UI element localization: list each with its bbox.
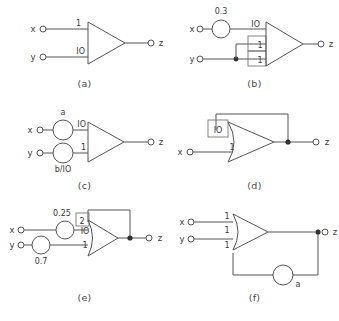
- panel-e: x y 0.25 0.7 2 IO 1 z (: [0, 200, 169, 321]
- input-label-x: x: [9, 225, 14, 235]
- circle-label-0p25: 0.25: [53, 209, 71, 218]
- panel-f: x y a 1 1 1 z (f): [170, 200, 339, 321]
- circle-label-b: b/IO: [55, 165, 71, 174]
- circle-label-a: a: [61, 108, 66, 117]
- circle-0p7[interactable]: [32, 236, 50, 254]
- terminal-x[interactable]: [197, 26, 203, 32]
- terminal-z[interactable]: [318, 41, 324, 47]
- input-label-x: x: [179, 217, 184, 227]
- caption-a: (a): [0, 78, 169, 89]
- terminal-x[interactable]: [187, 149, 193, 155]
- output-label-z: z: [329, 39, 334, 49]
- input-label-x: x: [27, 125, 32, 135]
- terminal-z[interactable]: [322, 229, 328, 235]
- wire-feedback-left: [233, 253, 273, 275]
- gate-triangle: [88, 22, 125, 64]
- terminal-y[interactable]: [18, 242, 24, 248]
- gate-triangle: [233, 214, 268, 250]
- terminal-x[interactable]: [18, 227, 24, 233]
- junction-dot-z: [127, 235, 132, 240]
- weight-x: IO: [81, 227, 90, 236]
- input-label-y: y: [27, 148, 32, 158]
- weight-x: 1: [224, 212, 229, 221]
- terminal-x[interactable]: [188, 219, 194, 225]
- junction-dot-z: [285, 139, 290, 144]
- gate-triangle: [88, 220, 118, 256]
- input-label-y: y: [179, 234, 184, 244]
- weight-mid: 1: [257, 41, 262, 50]
- input-label-x: x: [189, 24, 194, 34]
- weight-y: 1: [224, 226, 229, 235]
- caption-b: (b): [170, 78, 339, 89]
- output-label-z: z: [158, 233, 163, 243]
- caption-f: (f): [170, 292, 339, 303]
- weight-x: 1: [76, 19, 81, 28]
- gate-triangle: [228, 122, 274, 162]
- input-label-y: y: [30, 52, 35, 62]
- weight-x: IO: [77, 120, 86, 129]
- circle-a[interactable]: [53, 120, 73, 140]
- junction-dot-z: [315, 229, 320, 234]
- weight-y: 1: [81, 143, 86, 152]
- caption-e: (e): [0, 292, 169, 303]
- circle-0p3[interactable]: [212, 20, 230, 38]
- output-label-z: z: [159, 137, 164, 147]
- wire-feedback: [216, 114, 288, 142]
- terminal-y[interactable]: [37, 150, 43, 156]
- circle-label-0p3: 0.3: [215, 7, 228, 16]
- caption-c: (c): [0, 180, 169, 191]
- circle-label-a: a: [296, 280, 301, 289]
- weight-feedback: 1: [224, 241, 229, 250]
- input-label-x: x: [177, 147, 182, 157]
- panel-a: x y 1 IO z (a): [0, 0, 169, 100]
- caption-d: (d): [170, 180, 339, 191]
- input-label-x: x: [30, 24, 35, 34]
- circle-label-0p7: 0.7: [35, 257, 48, 266]
- weight-x: IO: [251, 20, 260, 29]
- gate-triangle: [266, 22, 303, 66]
- input-label-y: y: [189, 54, 194, 64]
- terminal-y[interactable]: [197, 56, 203, 62]
- panel-b: x y 0.3 IO 1 1 z (b): [170, 0, 339, 100]
- weight-feedback: 2: [79, 217, 84, 226]
- weight-x: 1: [229, 143, 234, 152]
- panel-c: x y a b/IO IO 1 z (c): [0, 100, 169, 200]
- terminal-x[interactable]: [40, 26, 46, 32]
- circle-0p25[interactable]: [56, 221, 74, 239]
- figure-root: x y 1 IO z (a) x y 0.: [0, 0, 339, 321]
- circle-b[interactable]: [53, 143, 73, 163]
- weight-y: 1: [82, 241, 87, 250]
- terminal-x[interactable]: [37, 127, 43, 133]
- input-label-y: y: [9, 240, 14, 250]
- terminal-y[interactable]: [40, 54, 46, 60]
- terminal-z[interactable]: [148, 40, 154, 46]
- output-label-z: z: [159, 38, 164, 48]
- terminal-y[interactable]: [188, 236, 194, 242]
- output-label-z: z: [333, 227, 338, 237]
- panel-d: x IO 1 z (d): [170, 100, 339, 200]
- weight-y: IO: [76, 47, 85, 56]
- circle-a[interactable]: [273, 265, 293, 285]
- weight-y: 1: [257, 56, 262, 65]
- wire-feedback-right: [293, 232, 318, 275]
- terminal-z[interactable]: [148, 139, 154, 145]
- weight-feedback: IO: [214, 126, 223, 135]
- gate-triangle: [88, 122, 124, 162]
- terminal-z[interactable]: [146, 235, 152, 241]
- output-label-z: z: [325, 137, 330, 147]
- terminal-z[interactable]: [313, 139, 319, 145]
